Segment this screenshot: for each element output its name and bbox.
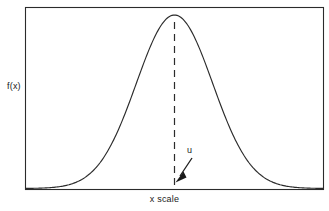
y-axis-label: f(x)	[7, 81, 21, 91]
figure-background	[0, 0, 329, 211]
mean-marker-label: u	[187, 145, 192, 155]
normal-distribution-figure	[0, 0, 329, 211]
x-axis-label: x scale	[0, 194, 329, 204]
